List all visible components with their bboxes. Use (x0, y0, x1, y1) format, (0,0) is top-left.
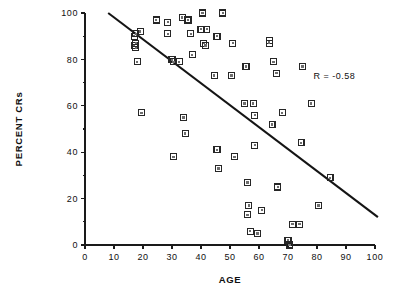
data-point-center (261, 209, 263, 211)
data-series-subjects (131, 10, 333, 248)
data-point-center (213, 74, 215, 76)
regression-line (108, 13, 378, 217)
data-point-center (216, 149, 218, 151)
data-point-center (298, 223, 300, 225)
data-point-center (139, 30, 141, 32)
data-point-center (187, 19, 189, 21)
data-point-center (167, 21, 169, 23)
data-point-center (300, 142, 302, 144)
x-tick-label: 80 (311, 252, 322, 262)
data-point-center (135, 47, 137, 49)
data-point-center (216, 35, 218, 37)
data-point-center (248, 204, 250, 206)
scatter-plot-figure: 0204060801000102030405060708090100AGEPER… (0, 0, 403, 301)
data-point-center (281, 112, 283, 114)
x-axis-title: AGE (219, 274, 242, 285)
data-point-center (246, 181, 248, 183)
data-point-center (254, 144, 256, 146)
data-point-center (232, 42, 234, 44)
data-point-center (178, 61, 180, 63)
data-point-center (204, 44, 206, 46)
y-tick-label: 40 (67, 147, 78, 157)
data-point-center (206, 28, 208, 30)
x-tick-label: 50 (224, 252, 235, 262)
data-point-center (246, 214, 248, 216)
y-tick-label: 80 (67, 55, 78, 65)
x-tick-label: 30 (166, 252, 177, 262)
x-tick-label: 90 (340, 252, 351, 262)
data-point-center (249, 230, 251, 232)
x-tick-label: 10 (108, 252, 119, 262)
data-point-center (287, 239, 289, 241)
data-point-center (222, 12, 224, 14)
x-tick-label: 60 (253, 252, 264, 262)
data-point-center (271, 123, 273, 125)
data-point-center (301, 65, 303, 67)
data-point-center (272, 61, 274, 63)
x-tick-label: 0 (82, 252, 88, 262)
data-point-center (217, 167, 219, 169)
data-point-center (172, 61, 174, 63)
data-point-center (172, 156, 174, 158)
data-point-center (329, 177, 331, 179)
y-tick-label: 100 (61, 8, 78, 18)
data-point-center (243, 102, 245, 104)
data-point-center (252, 102, 254, 104)
data-point-center (181, 16, 183, 18)
data-point-center (182, 116, 184, 118)
data-point-center (233, 156, 235, 158)
plot-canvas: 0204060801000102030405060708090100AGEPER… (0, 0, 403, 301)
data-point-center (268, 42, 270, 44)
data-point-center (230, 74, 232, 76)
x-tick-label: 20 (137, 252, 148, 262)
data-point-center (317, 204, 319, 206)
data-point-center (135, 42, 137, 44)
data-point-center (254, 114, 256, 116)
data-point-center (200, 28, 202, 30)
data-point-center (275, 72, 277, 74)
data-point-center (245, 65, 247, 67)
data-point-center (201, 12, 203, 14)
y-tick-label: 60 (67, 101, 78, 111)
data-point-center (277, 186, 279, 188)
data-point-center (155, 19, 157, 21)
correlation-label: R = -0.58 (314, 71, 356, 81)
data-point-center (310, 102, 312, 104)
data-point-center (288, 244, 290, 246)
data-point-center (140, 112, 142, 114)
x-tick-label: 40 (195, 252, 206, 262)
y-tick-label: 20 (67, 194, 78, 204)
data-point-center (291, 223, 293, 225)
data-point-center (256, 232, 258, 234)
x-tick-label: 70 (282, 252, 293, 262)
data-point-center (167, 33, 169, 35)
data-point-center (191, 54, 193, 56)
data-point-center (190, 33, 192, 35)
x-tick-label: 100 (367, 252, 384, 262)
y-tick-label: 0 (72, 240, 78, 250)
y-axis-title: PERCENT CRs (13, 92, 24, 167)
data-point-center (184, 132, 186, 134)
data-point-center (136, 61, 138, 63)
